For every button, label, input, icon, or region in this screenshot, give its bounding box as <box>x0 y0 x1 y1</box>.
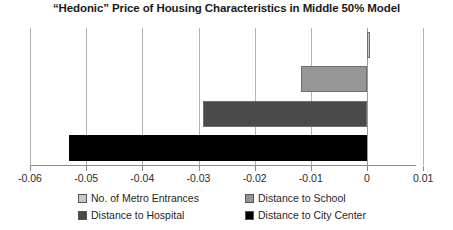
legend-swatch-icon <box>245 194 254 203</box>
bar-distance-to-city-center <box>69 135 367 161</box>
x-tick--0.04 <box>142 166 143 171</box>
x-tick-0 <box>367 166 368 171</box>
gridline-0.01 <box>423 28 424 165</box>
x-tick--0.03 <box>199 166 200 171</box>
legend-label: Distance to School <box>258 192 346 204</box>
bar-distance-to-hospital <box>203 101 367 127</box>
legend-item[interactable]: Distance to City Center <box>245 209 366 221</box>
x-tick-label--0.02: -0.02 <box>225 172 285 184</box>
legend-swatch-icon <box>78 211 87 220</box>
x-tick-label--0.04: -0.04 <box>112 172 172 184</box>
x-tick-label--0.01: -0.01 <box>281 172 341 184</box>
legend-item[interactable]: Distance to Hospital <box>78 209 184 221</box>
legend-label: Distance to City Center <box>258 209 366 221</box>
bar-distance-to-school <box>301 66 367 92</box>
legend-label: No. of Metro Entrances <box>91 192 199 204</box>
legend-swatch-icon <box>78 194 87 203</box>
chart-legend: No. of Metro EntrancesDistance to School… <box>0 192 453 230</box>
x-tick-0.01 <box>423 166 424 171</box>
x-tick-label-0: 0 <box>337 172 397 184</box>
x-tick--0.02 <box>255 166 256 171</box>
x-tick-label--0.03: -0.03 <box>169 172 229 184</box>
legend-swatch-icon <box>245 211 254 220</box>
chart-figure: “Hedonic” Price of Housing Characteristi… <box>0 0 453 230</box>
x-tick-label--0.06: -0.06 <box>0 172 60 184</box>
x-tick--0.05 <box>86 166 87 171</box>
legend-item[interactable]: No. of Metro Entrances <box>78 192 199 204</box>
x-axis-line <box>30 165 416 166</box>
gridline--0.06 <box>30 28 31 165</box>
legend-item[interactable]: Distance to School <box>245 192 346 204</box>
bar-no-of-metro-entrances <box>367 32 370 58</box>
x-tick--0.01 <box>311 166 312 171</box>
x-tick-label-0.01: 0.01 <box>393 172 453 184</box>
x-tick-label--0.05: -0.05 <box>56 172 116 184</box>
chart-title: “Hedonic” Price of Housing Characteristi… <box>0 2 453 14</box>
x-tick--0.06 <box>30 166 31 171</box>
legend-label: Distance to Hospital <box>91 209 184 221</box>
